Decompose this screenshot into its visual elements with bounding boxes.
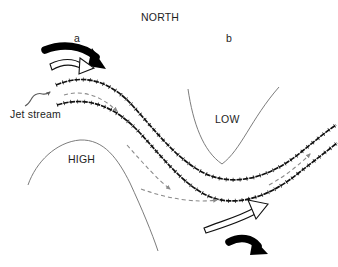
label-north: NORTH bbox=[141, 11, 179, 23]
hollow-arrow-a-outline bbox=[50, 60, 82, 71]
convergence-arrow-pair-b bbox=[204, 200, 268, 255]
jet-lower-boundary bbox=[57, 101, 337, 200]
jet-lower-barbs bbox=[57, 101, 337, 200]
jet-stream-pointer-arrow bbox=[25, 92, 50, 106]
diagram-canvas bbox=[0, 0, 338, 267]
label-point-a: a bbox=[74, 32, 80, 44]
label-low-pressure: LOW bbox=[215, 113, 240, 125]
solid-black-arrow-a bbox=[45, 46, 96, 57]
label-high-pressure: HIGH bbox=[68, 153, 95, 165]
label-point-b: b bbox=[226, 32, 232, 44]
low-trough-contour bbox=[188, 87, 279, 164]
jet-upper-boundary bbox=[56, 79, 336, 179]
label-jet-stream: Jet stream bbox=[10, 108, 61, 120]
hollow-arrow-b-outline bbox=[204, 208, 257, 233]
jet-upper-barbs bbox=[56, 79, 336, 179]
dashed-flow-arrow-group bbox=[64, 93, 310, 201]
divergence-arrow-pair-a bbox=[45, 46, 106, 74]
solid-black-arrowhead-b bbox=[250, 238, 268, 255]
jet-stream-diagram: NORTH a b Jet stream LOW HIGH bbox=[0, 0, 338, 267]
contour-group bbox=[28, 87, 279, 251]
dashed-flow-arrow-2 bbox=[127, 145, 170, 189]
